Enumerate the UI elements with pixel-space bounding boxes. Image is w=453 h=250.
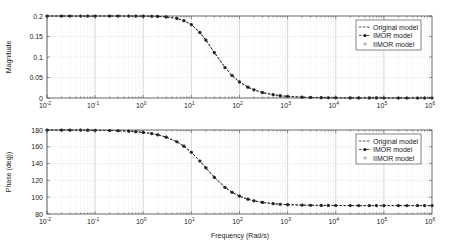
magnitude-panel: Magnitude 00.050.10.150.210-210-11001011… [5, 13, 436, 110]
phase-y-axis-label: Phase (deg)) [5, 152, 13, 192]
legend-marker-swatch [363, 34, 366, 37]
y-tick-label: 120 [31, 177, 43, 184]
y-tick-label: 160 [31, 143, 43, 150]
y-tick-label: 0 [39, 95, 43, 102]
y-tick-label: 0.15 [29, 33, 43, 40]
legend-entry-label: IMOR model [373, 32, 413, 39]
bode-plot-figure: Magnitude 00.050.10.150.210-210-11001011… [0, 0, 453, 250]
y-tick-label: 0.05 [29, 74, 43, 81]
legend-marker-swatch [363, 148, 366, 151]
legend-entry-label: Original model [373, 138, 419, 146]
magnitude-legend: Original modelIMOR modelIIMOR model [356, 20, 421, 50]
legend-entry-label: IIMOR model [373, 41, 415, 48]
y-tick-label: 80 [35, 211, 43, 218]
frequency-x-axis-label: Frequency (Rad/s) [211, 232, 269, 240]
y-tick-label: 0.2 [33, 13, 43, 20]
legend-entry-label: IIMOR model [373, 155, 415, 162]
legend-entry-label: IMOR model [373, 146, 413, 153]
y-tick-label: 140 [31, 160, 43, 167]
y-tick-label: 180 [31, 127, 43, 134]
y-tick-label: 100 [31, 194, 43, 201]
magnitude-y-axis-label: Magnitude [5, 41, 13, 74]
y-tick-label: 0.1 [33, 54, 43, 61]
phase-legend: Original modelIMOR modelIIMOR model [356, 134, 421, 164]
legend-entry-label: Original model [373, 24, 419, 32]
